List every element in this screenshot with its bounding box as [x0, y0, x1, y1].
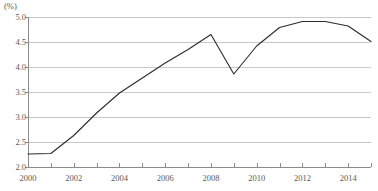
line-chart: (%) 5.04.54.03.53.02.52.0 20002002200420…: [0, 0, 378, 191]
x-axis-tick-label: 2006: [150, 174, 180, 183]
x-axis-tick-labels: 20002002200420062008201020122014: [0, 0, 378, 191]
x-axis-tick-label: 2012: [287, 174, 317, 183]
x-axis-tick-label: 2008: [196, 174, 226, 183]
x-axis-tick-label: 2000: [13, 174, 43, 183]
x-axis-tick-label: 2010: [242, 174, 272, 183]
x-axis-tick-label: 2014: [333, 174, 363, 183]
x-axis-tick-label: 2004: [104, 174, 134, 183]
x-axis-tick-label: 2002: [59, 174, 89, 183]
